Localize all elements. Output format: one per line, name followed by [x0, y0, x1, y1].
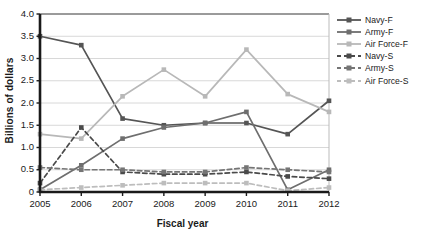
legend-item-navy-f[interactable]: Navy-F: [336, 14, 439, 26]
data-point: [79, 185, 84, 190]
data-point: [327, 170, 332, 175]
legend-label: Air Force-F: [365, 39, 408, 49]
legend-label: Navy-S: [365, 51, 393, 61]
x-tick-label: 2011: [266, 198, 310, 209]
legend-swatch: [336, 62, 362, 74]
data-point: [203, 121, 208, 126]
y-tick-label: 2.0: [8, 97, 34, 108]
x-tick-label: 2007: [101, 198, 145, 209]
y-tick-label: 3.5: [8, 30, 34, 41]
x-axis-label: Fiscal year: [40, 218, 325, 229]
data-point: [162, 67, 167, 72]
data-point: [244, 170, 249, 175]
data-point: [120, 183, 125, 188]
data-point: [120, 116, 125, 121]
x-tick-label: 2006: [59, 198, 103, 209]
data-point: [79, 43, 84, 48]
x-tick-label: 2009: [183, 198, 227, 209]
x-tick-label: 2005: [18, 198, 62, 209]
legend-marker: [347, 66, 352, 71]
data-point: [285, 92, 290, 97]
legend-marker: [347, 30, 352, 35]
y-tick-label: 3.0: [8, 52, 34, 63]
legend-item-navy-s[interactable]: Navy-S: [336, 50, 439, 62]
legend-label: Army-F: [365, 27, 393, 37]
data-point: [120, 136, 125, 141]
series-army-f: [38, 110, 332, 192]
legend-label: Army-S: [365, 63, 394, 73]
data-point: [285, 167, 290, 172]
legend-item-army-f[interactable]: Army-F: [336, 26, 439, 38]
data-point: [244, 121, 249, 126]
legend-label: Navy-F: [365, 15, 393, 25]
x-tick-label: 2010: [224, 198, 268, 209]
data-point: [79, 163, 84, 168]
legend-item-army-s[interactable]: Army-S: [336, 62, 439, 74]
legend-swatch: [336, 38, 362, 50]
data-point: [120, 167, 125, 172]
y-tick-label: 1.5: [8, 119, 34, 130]
y-tick-label: 0: [8, 186, 34, 197]
data-point: [244, 110, 249, 115]
legend-swatch: [336, 75, 362, 87]
data-point: [162, 125, 167, 130]
y-tick-label: 4.0: [8, 8, 34, 19]
legend-swatch: [336, 26, 362, 38]
data-point: [79, 136, 84, 141]
data-point: [203, 181, 208, 186]
legend-swatch: [336, 14, 362, 26]
series-line: [40, 36, 329, 134]
line-chart: Billions of dollars Fiscal year 00.51.01…: [0, 0, 439, 238]
data-point: [79, 125, 84, 130]
data-point: [327, 110, 332, 115]
data-point: [203, 170, 208, 175]
data-point: [203, 94, 208, 99]
legend-swatch: [336, 50, 362, 62]
series-navy-f: [38, 34, 332, 137]
data-point: [327, 98, 332, 103]
data-point: [244, 47, 249, 52]
legend-item-air-force-s[interactable]: Air Force-S: [336, 74, 439, 86]
legend-marker: [347, 42, 352, 47]
data-point: [327, 176, 332, 181]
legend-marker: [347, 18, 352, 23]
data-point: [285, 132, 290, 137]
y-tick-label: 1.0: [8, 141, 34, 152]
data-point: [79, 167, 84, 172]
data-point: [244, 181, 249, 186]
y-tick-label: 2.5: [8, 74, 34, 85]
legend-label: Air Force-S: [365, 76, 408, 86]
data-point: [162, 181, 167, 186]
legend-item-air-force-f[interactable]: Air Force-F: [336, 38, 439, 50]
x-tick-label: 2008: [142, 198, 186, 209]
data-point: [327, 185, 332, 190]
y-tick-label: 0.5: [8, 163, 34, 174]
data-point: [120, 94, 125, 99]
legend: Navy-FArmy-FAir Force-FNavy-SArmy-SAir F…: [336, 14, 439, 87]
data-point: [285, 174, 290, 179]
x-tick-label: 2012: [307, 198, 351, 209]
legend-marker: [347, 54, 352, 59]
data-point: [162, 170, 167, 175]
data-point: [244, 165, 249, 170]
legend-marker: [347, 78, 352, 83]
